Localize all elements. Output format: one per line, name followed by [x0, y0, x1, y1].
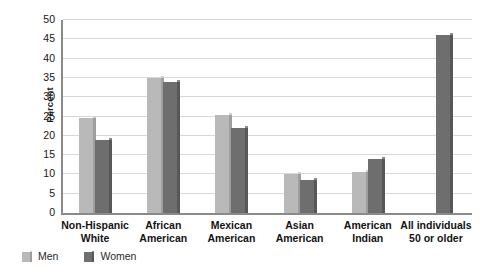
legend-item-women[interactable]: Women: [84, 250, 136, 262]
x-tick-label-line: 50 or older: [381, 232, 491, 245]
bar-side-shadow: [245, 128, 248, 213]
legend-label: Men: [38, 250, 58, 262]
plot-area: [61, 20, 472, 215]
bar-face: [147, 78, 161, 213]
legend-swatch-face: [22, 252, 30, 262]
gridline: [63, 173, 472, 174]
bar-women: [300, 180, 317, 213]
chart-legend: MenWomen: [22, 250, 136, 262]
bar-side-shadow: [314, 180, 317, 213]
bar-women: [436, 35, 453, 213]
bar-face: [95, 140, 109, 213]
gridline: [63, 135, 472, 136]
legend-swatch-side: [30, 252, 32, 262]
x-tick-label-line: All individuals: [381, 219, 491, 232]
bar-face: [215, 115, 229, 213]
bar-top-highlight: [161, 76, 164, 78]
bar-women: [368, 159, 385, 213]
bar-group: [215, 20, 251, 213]
bar-side-shadow: [177, 82, 180, 213]
bar-men: [79, 118, 96, 213]
bar-side-shadow: [109, 140, 112, 213]
bar-men: [284, 174, 301, 213]
bar-top-highlight: [450, 33, 453, 35]
bar-top-highlight: [177, 80, 180, 82]
bar-group: [352, 20, 388, 213]
bar-face: [436, 35, 450, 213]
gridline: [63, 154, 472, 155]
bar-side-shadow: [382, 159, 385, 213]
bar-men: [352, 172, 369, 213]
bar-women: [163, 82, 180, 213]
y-tick-label: 15: [30, 149, 55, 160]
bar-group: [284, 20, 320, 213]
bar-top-highlight: [382, 157, 385, 159]
legend-swatch: [84, 251, 94, 262]
bar-group: [147, 20, 183, 213]
gridline: [63, 77, 472, 78]
x-tick-label: All individuals50 or older: [381, 219, 491, 245]
bar-face: [368, 159, 382, 213]
bar-top-highlight: [109, 138, 112, 140]
legend-label: Women: [100, 250, 136, 262]
bar-women: [95, 140, 112, 213]
bar-men: [215, 115, 232, 213]
bar-men: [147, 78, 164, 213]
legend-swatch-top: [30, 251, 32, 252]
bar-group: [420, 20, 456, 213]
legend-item-men[interactable]: Men: [22, 250, 58, 262]
y-tick-label: 5: [30, 188, 55, 199]
legend-swatch-top: [92, 251, 94, 252]
y-tick-label: 45: [30, 33, 55, 44]
gridline: [63, 58, 472, 59]
legend-swatch: [22, 251, 32, 262]
y-axis-title: Percent: [44, 70, 58, 140]
gridline: [63, 193, 472, 194]
bar-top-highlight: [314, 178, 317, 180]
bar-group: [79, 20, 115, 213]
y-tick-label: 40: [30, 53, 55, 64]
legend-swatch-face: [84, 252, 92, 262]
y-tick-label: 0: [30, 207, 55, 218]
bar-side-shadow: [450, 35, 453, 213]
bar-top-highlight: [245, 126, 248, 128]
y-tick-label: 10: [30, 168, 55, 179]
bar-top-highlight: [229, 113, 232, 115]
gridline: [63, 116, 472, 117]
bar-face: [231, 128, 245, 213]
bar-face: [163, 82, 177, 213]
bar-face: [300, 180, 314, 213]
bar-women: [231, 128, 248, 213]
bar-chart: Percent 05101520253035404550 Non-Hispani…: [0, 0, 500, 270]
bar-top-highlight: [93, 116, 96, 118]
gridline: [63, 38, 472, 39]
bar-top-highlight: [298, 172, 301, 174]
gridline: [63, 19, 472, 20]
gridline: [63, 96, 472, 97]
legend-swatch-side: [92, 252, 94, 262]
bar-face: [284, 174, 298, 213]
y-tick-label: 50: [30, 14, 55, 25]
bar-face: [352, 172, 366, 213]
bar-face: [79, 118, 93, 213]
